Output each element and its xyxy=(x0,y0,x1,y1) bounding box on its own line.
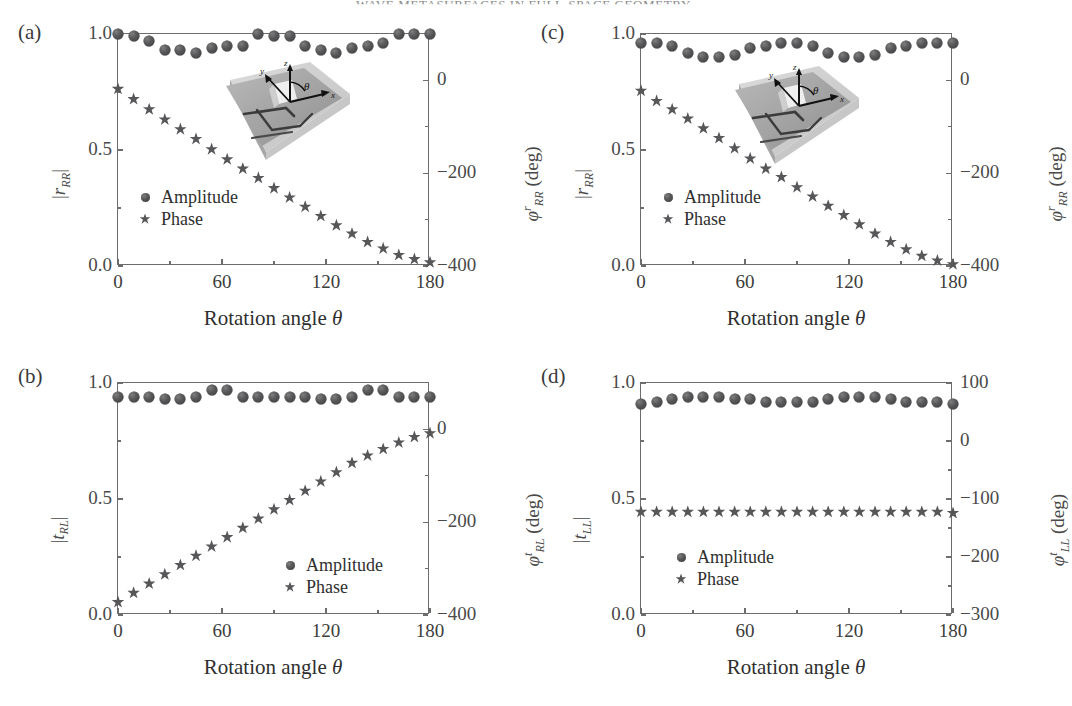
data-point-phase xyxy=(205,540,218,553)
panel-label-d: (d) xyxy=(541,364,566,389)
ytick-right-label: 0 xyxy=(960,68,970,90)
legend-d: AmplitudePhase xyxy=(669,546,774,590)
data-point-amplitude xyxy=(206,384,217,395)
data-point-amplitude xyxy=(636,38,647,49)
data-point-amplitude xyxy=(854,391,865,402)
inset-axis-label-x: x xyxy=(839,94,844,104)
data-point-amplitude xyxy=(776,38,787,49)
ytick-right-mark xyxy=(946,265,951,266)
circle-marker-icon xyxy=(656,193,680,202)
circle-marker-icon xyxy=(901,396,912,407)
star-marker-icon xyxy=(669,574,693,585)
star-marker-icon xyxy=(330,466,343,479)
y-axis-label-left-d: |tLL| xyxy=(569,517,595,543)
circle-marker-icon xyxy=(113,391,124,402)
star-marker-icon xyxy=(915,505,928,518)
star-marker-icon xyxy=(314,209,327,222)
panel-label-b: (b) xyxy=(18,364,43,389)
data-point-amplitude xyxy=(667,394,678,405)
circle-marker-icon xyxy=(838,391,849,402)
circle-marker-icon xyxy=(807,40,818,51)
xtick-mark xyxy=(429,259,430,264)
data-point-amplitude xyxy=(916,38,927,49)
data-point-phase xyxy=(947,506,960,519)
circle-marker-icon xyxy=(651,38,662,49)
circle-marker-icon xyxy=(682,391,693,402)
data-point-phase xyxy=(775,505,788,518)
data-point-phase xyxy=(112,82,125,95)
ytick-left-minor xyxy=(641,207,644,208)
star-marker-icon xyxy=(947,506,960,519)
xtick-minor xyxy=(273,610,274,613)
panel-c: (c)0.00.51.00−200−400060120180|rRR|φrRR … xyxy=(523,14,1047,354)
star-marker-icon xyxy=(759,505,772,518)
data-point-amplitude xyxy=(393,29,404,40)
ytick-left-label: 1.0 xyxy=(611,22,635,44)
data-point-phase xyxy=(728,505,741,518)
circle-marker-icon xyxy=(300,391,311,402)
circle-marker-icon xyxy=(948,38,959,49)
star-marker-icon xyxy=(775,505,788,518)
xtick-label: 0 xyxy=(113,271,123,293)
star-marker-icon xyxy=(221,531,234,544)
data-point-phase xyxy=(330,219,343,232)
star-marker-icon xyxy=(252,512,265,525)
star-marker-icon xyxy=(283,493,296,506)
data-point-amplitude xyxy=(870,391,881,402)
data-point-phase xyxy=(174,123,187,136)
data-point-amplitude xyxy=(347,391,358,402)
xtick-minor xyxy=(900,261,901,264)
data-point-phase xyxy=(361,235,374,248)
xtick-label: 0 xyxy=(113,620,123,642)
x-axis-label-a: Rotation angle θ xyxy=(117,306,429,331)
star-marker-icon xyxy=(377,442,390,455)
xtick-label: 60 xyxy=(213,620,232,642)
data-point-amplitude xyxy=(159,394,170,405)
xtick-label: 60 xyxy=(736,620,755,642)
circle-marker-icon xyxy=(760,40,771,51)
legend-item-amplitude: Amplitude xyxy=(669,546,774,568)
data-point-amplitude xyxy=(175,394,186,405)
data-point-amplitude xyxy=(698,52,709,63)
circle-marker-icon xyxy=(932,38,943,49)
y-axis-label-left-a: |rRR| xyxy=(48,169,74,199)
panel-d: (d)0.00.51.01000−100−200−300060120180|tL… xyxy=(523,358,1047,702)
data-point-phase xyxy=(221,531,234,544)
y-axis-label-left-c: |rRR| xyxy=(571,169,597,199)
ytick-right-label: −200 xyxy=(437,510,476,532)
circle-marker-icon xyxy=(237,391,248,402)
ytick-right-mark xyxy=(946,440,951,441)
legend-label: Phase xyxy=(161,209,203,230)
data-point-amplitude xyxy=(206,42,217,53)
metasurface-inset-illustration: z y x θ xyxy=(709,60,861,164)
star-marker-icon xyxy=(744,505,757,518)
data-point-amplitude xyxy=(745,394,756,405)
circle-marker-icon xyxy=(776,38,787,49)
circle-marker-icon xyxy=(760,396,771,407)
data-point-phase xyxy=(346,456,359,469)
ytick-right-mark xyxy=(423,429,428,430)
star-marker-icon xyxy=(236,521,249,534)
marker-glyph xyxy=(663,214,674,225)
data-point-amplitude xyxy=(144,391,155,402)
ytick-left-label: 0.0 xyxy=(88,254,112,276)
data-point-amplitude xyxy=(682,391,693,402)
data-point-phase xyxy=(314,475,327,488)
star-marker-icon xyxy=(133,214,157,225)
circle-marker-icon xyxy=(331,394,342,405)
xtick-mark xyxy=(221,608,222,613)
data-point-amplitude xyxy=(651,396,662,407)
star-marker-icon xyxy=(666,505,679,518)
data-point-amplitude xyxy=(823,394,834,405)
xtick-minor xyxy=(377,261,378,264)
circle-marker-icon xyxy=(128,391,139,402)
ytick-left-mark xyxy=(641,265,646,266)
ytick-right-mark xyxy=(946,614,951,615)
marker-glyph xyxy=(141,193,150,202)
star-marker-icon xyxy=(635,505,648,518)
ytick-left-label: 0.5 xyxy=(611,138,635,160)
legend-item-phase: Phase xyxy=(133,208,238,230)
xtick-label: 60 xyxy=(736,271,755,293)
data-point-amplitude xyxy=(729,394,740,405)
